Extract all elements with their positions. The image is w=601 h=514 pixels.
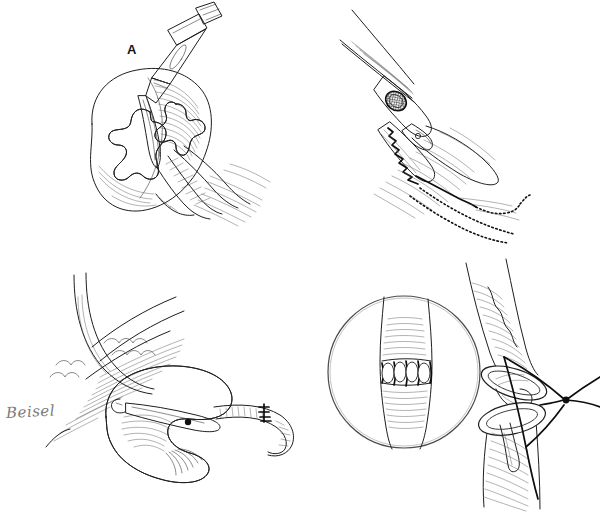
panel-b-drawing [300,0,600,257]
suture-tails [566,377,600,407]
panel-d-drawing [300,257,600,514]
running-suture-line [416,176,530,214]
pedicle-fan [194,164,270,226]
tissue-plane-hatching [374,126,498,218]
panel-label-a: A [127,43,137,56]
scalpel-handle [146,2,222,103]
artist-signature: Beisel [6,402,56,421]
panel-d: D [300,257,600,514]
inset-interrupted-sutures [382,361,432,386]
retractor-blade [74,273,154,394]
panel-c: C [0,257,300,514]
panel-a-drawing [0,0,300,257]
pedicle-hatching [166,158,210,204]
instrument-serrated-jaw [378,122,435,184]
renal-calyces [109,109,166,180]
dotted-suture-trail [410,188,519,243]
panel-c-drawing [0,257,300,514]
clamp-instrument [111,399,220,432]
renal-hilum-vessels [156,146,270,226]
clamp-pivot-dot [185,419,191,425]
instrument-shaft [340,10,414,102]
panel-a: A [0,0,300,257]
panel-b: B [300,0,600,257]
fascial-layer-hatching [46,297,184,447]
scalpel-blade [138,96,160,168]
figure-root: A [0,0,601,514]
